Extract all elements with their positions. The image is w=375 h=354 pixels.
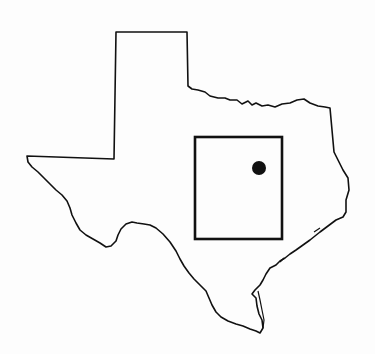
map-canvas [0,0,375,354]
texas-state-outline [27,32,349,333]
study-area-box [195,137,282,239]
texas-locator-map [0,0,375,354]
coastal-barrier-islands [258,228,320,328]
site-marker-dot [252,161,266,175]
